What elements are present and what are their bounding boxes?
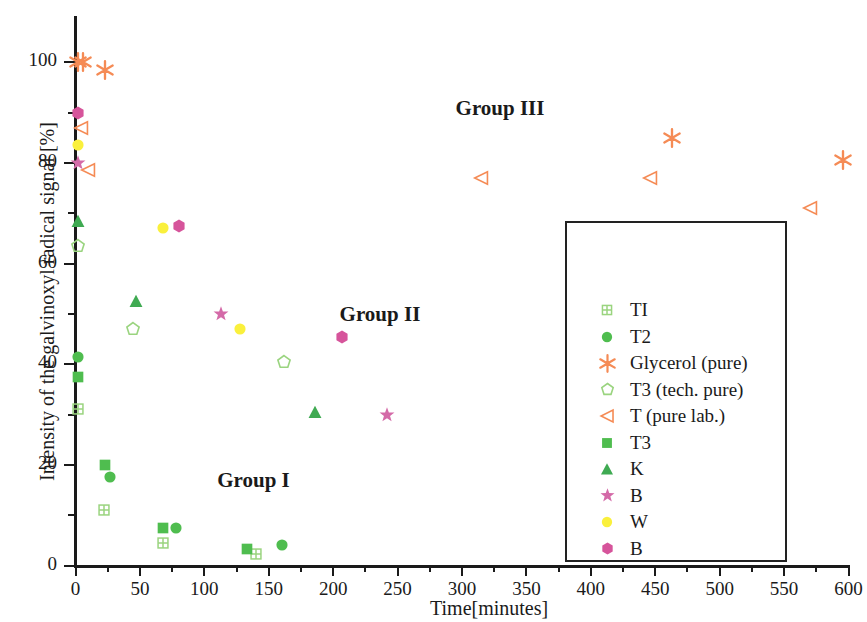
x-tick-major [590,565,592,576]
data-point-marker [277,355,291,369]
x-tick-label: 200 [303,578,363,600]
legend-entry-label: T (pure lab.) [630,405,725,427]
legend-entry[interactable]: T2 [594,324,748,351]
square-icon [594,437,620,449]
y-tick-major [64,464,75,466]
x-tick-minor [107,565,109,572]
x-tick-major [848,565,850,576]
x-tick-minor [622,565,624,572]
x-tick-minor [493,565,495,572]
y-tick-major [64,162,75,164]
x-tick-minor [171,565,173,572]
x-tick-major [268,565,270,576]
y-axis-line [74,16,77,568]
legend-box: TIT2Glycerol (pure)T3 (tech. pure)T (pur… [565,221,787,562]
x-tick-minor [686,565,688,572]
y-tick-minor [68,112,75,114]
asterisk-icon [594,355,620,372]
legend-entry-list: TIT2Glycerol (pure)T3 (tech. pure)T (pur… [594,297,748,562]
legend-entry[interactable]: K [594,456,748,483]
y-tick-minor [68,313,75,315]
x-tick-major [139,565,141,576]
data-point-marker [308,405,323,420]
data-point-marker [129,294,144,309]
data-point-marker [157,536,170,549]
x-tick-major [525,565,527,576]
data-point-marker [663,129,681,147]
x-tick-minor [364,565,366,572]
square-plus-icon [594,304,620,316]
data-point-marker [643,171,658,186]
legend-entry-label: B [630,538,643,560]
x-tick-label: 0 [46,578,106,600]
legend-entry[interactable]: T (pure lab.) [594,403,748,430]
data-point-marker [96,61,114,79]
x-tick-label: 400 [561,578,621,600]
triangle-left-icon [594,409,620,423]
circle-icon [594,331,620,343]
x-tick-label: 600 [819,578,867,600]
y-tick-major [64,263,75,265]
x-tick-minor [429,565,431,572]
legend-entry[interactable]: B [594,536,748,563]
data-point-marker [157,521,170,534]
data-point-marker [240,543,253,556]
x-tick-label: 150 [239,578,299,600]
triangle-up-icon [594,462,620,476]
legend-entry[interactable]: Glycerol (pure) [594,350,748,377]
data-point-marker [834,151,852,169]
x-tick-major [332,565,334,576]
data-point-marker [97,504,110,517]
data-point-marker [213,306,229,322]
x-tick-major [397,565,399,576]
data-point-marker [71,213,86,228]
x-tick-major [719,565,721,576]
data-point-marker [157,222,170,235]
x-tick-label: 250 [368,578,428,600]
x-tick-minor [751,565,753,572]
legend-entry[interactable]: B [594,483,748,510]
group-annotation: Group II [340,302,421,327]
x-tick-minor [236,565,238,572]
legend-entry-label: T2 [630,326,651,348]
legend-entry[interactable]: T3 (tech. pure) [594,377,748,404]
y-tick-minor [68,212,75,214]
legend-entry-label: B [630,485,643,507]
legend-entry[interactable]: TI [594,297,748,324]
data-point-marker [275,539,288,552]
x-tick-major [75,565,77,576]
pentagon-icon [594,383,620,396]
x-axis-title: Time[minutes] [430,597,548,620]
legend-entry[interactable]: W [594,509,748,536]
x-tick-label: 500 [690,578,750,600]
legend-entry-label: T3 (tech. pure) [630,379,743,401]
x-tick-major [783,565,785,576]
star-icon [594,488,620,503]
data-point-marker [474,171,489,186]
y-tick-major [64,61,75,63]
x-tick-major [461,565,463,576]
hexagon-icon [594,542,620,555]
y-axis-title: Intensity of the galvinoxyl radical sign… [36,42,59,562]
group-annotation: Group III [456,96,545,121]
x-tick-minor [815,565,817,572]
x-tick-label: 50 [110,578,170,600]
data-point-marker [104,471,117,484]
data-point-marker [172,219,186,233]
x-tick-major [203,565,205,576]
data-point-marker [379,407,395,423]
data-point-marker [99,458,112,471]
legend-entry-label: TI [630,299,648,321]
x-tick-label: 450 [625,578,685,600]
data-point-marker [169,521,182,534]
circle-icon [594,516,620,528]
y-tick-major [64,363,75,365]
legend-entry-label: Glycerol (pure) [630,352,748,374]
data-point-marker [81,163,96,178]
legend-entry-label: W [630,511,648,533]
y-tick-minor [68,414,75,416]
data-point-marker [249,548,262,561]
group-annotation: Group I [217,468,290,493]
legend-entry[interactable]: T3 [594,430,748,457]
